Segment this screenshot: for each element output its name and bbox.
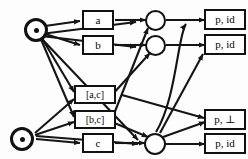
output-box-4[interactable]: p, id bbox=[204, 133, 246, 154]
input-box-bc[interactable]: [b,c] bbox=[74, 110, 116, 129]
input-box-a-label: a bbox=[96, 15, 101, 26]
output-box-2[interactable]: p, id bbox=[204, 34, 246, 55]
source-dot-icon bbox=[20, 137, 25, 142]
input-box-c-label: c bbox=[96, 138, 101, 149]
output-box-3[interactable]: p, ⊥ bbox=[204, 109, 246, 130]
output-box-3-label: p, ⊥ bbox=[214, 114, 235, 125]
input-box-ac-label: [a,c] bbox=[86, 90, 104, 100]
input-box-b-label: b bbox=[95, 40, 101, 51]
source-node-top[interactable] bbox=[24, 18, 48, 42]
merge-circle-1[interactable] bbox=[145, 10, 166, 31]
output-box-4-label: p, id bbox=[215, 138, 235, 149]
input-box-ac[interactable]: [a,c] bbox=[74, 85, 116, 104]
diagram-canvas: a b [a,c] [b,c] c p, id p, id p, ⊥ p, id bbox=[0, 0, 248, 159]
output-box-2-label: p, id bbox=[215, 39, 235, 50]
input-box-c[interactable]: c bbox=[82, 133, 114, 153]
output-box-1-label: p, id bbox=[215, 14, 235, 25]
merge-circle-2[interactable] bbox=[145, 35, 166, 56]
output-box-1[interactable]: p, id bbox=[204, 9, 246, 30]
edges-boxes-to-circles bbox=[112, 20, 150, 143]
source-dot-icon bbox=[34, 28, 39, 33]
input-box-bc-label: [b,c] bbox=[86, 115, 105, 125]
input-box-b[interactable]: b bbox=[82, 35, 114, 55]
input-box-a[interactable]: a bbox=[82, 10, 114, 30]
source-node-bottom[interactable] bbox=[10, 127, 34, 151]
merge-circle-3[interactable] bbox=[144, 133, 166, 155]
